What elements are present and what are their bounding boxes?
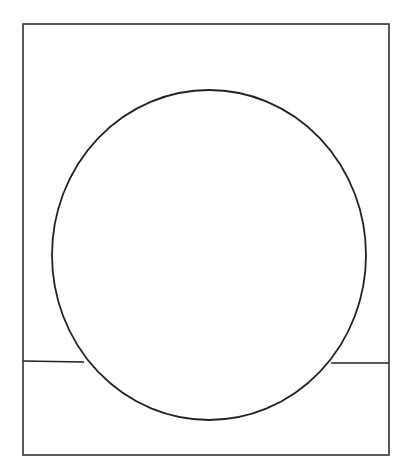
- circle-shape: [52, 90, 366, 420]
- frame-border: [23, 24, 389, 455]
- diagram-canvas: [0, 0, 411, 476]
- horizon-line-left: [23, 361, 84, 362]
